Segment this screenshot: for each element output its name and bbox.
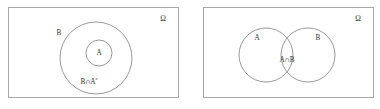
annulus-label-superscript: c <box>96 76 98 81</box>
nested-sets-svg: Ω B A B∩Ac <box>9 8 178 97</box>
outer-circle-b <box>60 22 132 94</box>
annulus-label-b-intersect-a-complement: B∩Ac <box>80 76 97 85</box>
figure-canvas: Ω B A B∩Ac Ω A B A∩B <box>0 0 380 109</box>
outer-set-label-b: B <box>57 29 62 37</box>
set-label-b: B <box>316 34 321 42</box>
annulus-label-base: B∩A <box>80 78 96 86</box>
universe-label-right: Ω <box>355 14 361 23</box>
intersection-label-a-intersect-b: A∩B <box>279 56 294 64</box>
intersecting-sets-svg: Ω A B A∩B <box>204 8 373 97</box>
universe-label-left: Ω <box>160 14 166 23</box>
inner-set-label-a: A <box>96 49 102 57</box>
intersecting-sets-panel: Ω A B A∩B <box>203 7 374 98</box>
nested-sets-panel: Ω B A B∩Ac <box>8 7 179 98</box>
set-label-a: A <box>254 34 260 42</box>
